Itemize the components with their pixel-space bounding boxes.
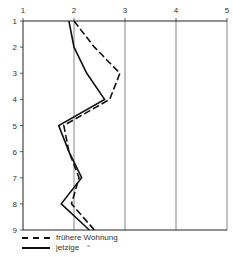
legend-label-current: jetzige (56, 243, 79, 253)
y-tick-label: 3 (13, 69, 18, 78)
legend-label-previous: frühere Wohnung (56, 233, 118, 243)
data-lines (59, 21, 120, 230)
tick-labels: 12345123456789 (13, 6, 230, 235)
x-tick-label: 1 (21, 6, 26, 15)
previous-home-line (64, 21, 120, 230)
x-tick-label: 3 (123, 6, 128, 15)
legend: frühere Wohnung jetzige “ (22, 233, 118, 253)
y-tick-label: 5 (13, 122, 18, 131)
profile-chart: 12345123456789 (0, 0, 233, 257)
current-home-line (59, 21, 105, 230)
dashed-line-swatch (22, 237, 50, 239)
x-tick-label: 2 (72, 6, 77, 15)
solid-line-swatch (22, 247, 50, 249)
ditto-mark: “ (87, 243, 90, 253)
y-tick-label: 7 (13, 174, 18, 183)
legend-item-previous: frühere Wohnung (22, 233, 118, 243)
y-tick-label: 2 (13, 43, 18, 52)
x-tick-label: 4 (174, 6, 179, 15)
y-tick-label: 6 (13, 148, 18, 157)
y-tick-label: 4 (13, 95, 18, 104)
x-tick-label: 5 (225, 6, 230, 15)
y-tick-label: 9 (13, 226, 18, 235)
axes (20, 18, 227, 230)
y-tick-label: 1 (13, 17, 18, 26)
y-tick-label: 8 (13, 200, 18, 209)
grid-lines (74, 21, 227, 230)
legend-item-current: jetzige “ (22, 243, 118, 253)
